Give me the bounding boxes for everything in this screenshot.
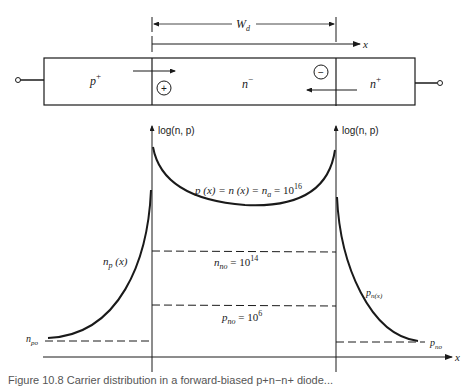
svg-text:−: −	[318, 67, 324, 78]
diode-structure: p+ n− n+ + −	[16, 58, 443, 106]
np-x-label: np (x)	[103, 255, 128, 270]
np-x-curve	[48, 190, 151, 338]
center-curve-label: p (x) = n (x) = na = 1016	[194, 182, 302, 199]
n-no-dashed-line	[152, 251, 336, 252]
depletion-width-dimension: Wd	[152, 17, 336, 42]
right-terminal-icon	[438, 81, 443, 86]
pn-x-label: pn(x)	[365, 287, 383, 300]
depletion-width-label: Wd	[236, 17, 251, 33]
p-no-center-label: pno = 106	[221, 309, 262, 326]
negative-charge-icon: −	[314, 65, 328, 79]
p-no-right-label: pno	[429, 337, 443, 351]
region-p-plus-label: p+	[89, 71, 101, 88]
device-x-label: x	[362, 38, 368, 50]
svg-text:+: +	[161, 83, 167, 94]
left-y-axis-label: log(n, p)	[158, 125, 195, 136]
p-no-center-dashed-line	[152, 305, 336, 306]
region-n-minus-label: n−	[242, 74, 253, 91]
pn-x-curve	[337, 197, 418, 341]
left-terminal-icon	[16, 78, 21, 83]
n-po-label: npo	[26, 333, 39, 347]
positive-charge-icon: +	[157, 81, 171, 95]
figure-caption: Figure 10.8 Carrier distribution in a fo…	[8, 374, 333, 386]
n-no-label: nno = 1014	[214, 254, 258, 271]
plot-x-label: x	[454, 351, 460, 363]
right-y-axis-label: log(n, p)	[342, 125, 379, 136]
center-carrier-curve	[153, 147, 335, 205]
region-n-plus-label: n+	[370, 74, 381, 91]
